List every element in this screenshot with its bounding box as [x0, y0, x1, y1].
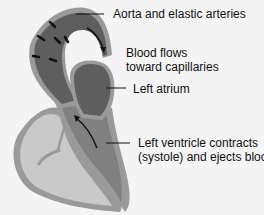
left-ventricle-label: Left ventricle contracts (systole) and e…	[138, 136, 264, 164]
aorta-label: Aorta and elastic arteries	[113, 7, 246, 21]
blood-flow-label: Blood flows toward capillaries	[126, 46, 219, 74]
left-atrium-label: Left atrium	[133, 82, 190, 96]
heart-diagram	[0, 0, 264, 215]
